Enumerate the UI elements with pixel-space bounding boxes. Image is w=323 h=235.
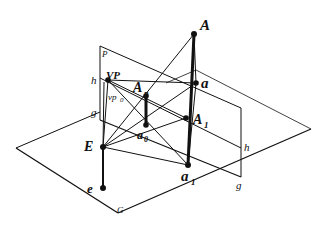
label-VP: VP bbox=[106, 69, 120, 81]
picture-plane bbox=[100, 46, 241, 177]
label-a0-sub: 0 bbox=[144, 135, 148, 144]
label-P: P bbox=[101, 49, 108, 59]
ground-plane bbox=[16, 70, 311, 213]
label-a1-sub: 1 bbox=[191, 177, 196, 187]
label-E: E bbox=[83, 139, 93, 154]
label-h-left: h bbox=[91, 74, 97, 86]
label-g-left: g bbox=[91, 106, 97, 118]
label-h-right: h bbox=[244, 141, 250, 153]
label-A1-sub: 1 bbox=[204, 120, 209, 130]
label-Ap: A bbox=[132, 80, 142, 95]
label-a0: a bbox=[137, 128, 143, 142]
label-e: e bbox=[87, 181, 93, 196]
label-a: a bbox=[201, 75, 209, 91]
object-line bbox=[188, 34, 196, 165]
points bbox=[100, 31, 199, 191]
label-a1: a bbox=[181, 168, 189, 184]
perspective-diagram: A a A p A 1 a 0 a 1 VP vp 0 E e P h h g … bbox=[0, 0, 323, 235]
label-g-right: g bbox=[236, 179, 242, 191]
label-Ap-sub: p bbox=[143, 88, 149, 98]
label-vp0-sub: 0 bbox=[120, 96, 124, 104]
label-A: A bbox=[199, 17, 210, 33]
label-vp0: vp bbox=[108, 92, 117, 102]
label-G: G bbox=[117, 205, 124, 215]
label-A1: A bbox=[192, 112, 202, 127]
